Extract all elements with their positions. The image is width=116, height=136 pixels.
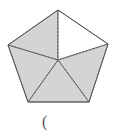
pentagon-figure — [0, 0, 116, 136]
answer-blank: ( — [42, 114, 47, 130]
